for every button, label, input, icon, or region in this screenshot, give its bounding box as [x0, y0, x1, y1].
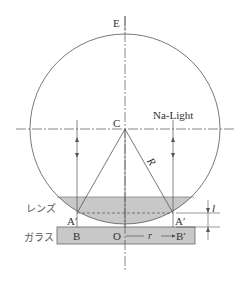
- label-B: B: [73, 230, 80, 242]
- label-A-right: A′: [175, 215, 185, 227]
- label-E: E: [113, 17, 120, 29]
- label-glass: ガラス: [24, 232, 54, 243]
- label-C: C: [113, 117, 120, 129]
- label-A-left: A′: [67, 215, 77, 227]
- label-r: r: [148, 230, 152, 241]
- label-na-light: Na-Light: [153, 109, 193, 121]
- newton-rings-diagram: E C Na-Light R レンズ ガラス A′ A′ B O r B′ l: [0, 0, 249, 284]
- label-l: l: [212, 202, 215, 214]
- label-lens: レンズ: [26, 202, 56, 214]
- label-O: O: [113, 230, 121, 242]
- label-B-prime: B′: [176, 230, 186, 242]
